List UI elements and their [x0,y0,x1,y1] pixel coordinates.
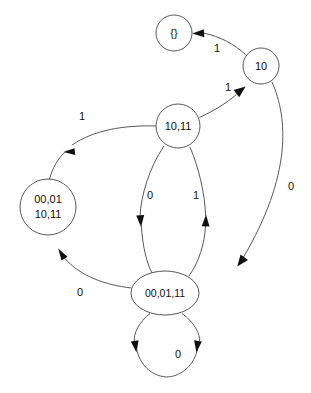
state-diagram-canvas: 1 1 0 1 [0,0,311,393]
arrow-head [58,249,67,261]
node-10[interactable]: 10 [243,48,279,84]
node-label-00-01-10-11-line1: 00,01 [34,193,62,205]
edge-label-000111-self-loop: 0 [175,348,181,360]
edge-path [140,146,164,216]
edge-000111-self-loop: 0 [131,314,202,378]
edge-label-1011-to-10: 1 [225,81,231,93]
edge-path [189,226,206,276]
edge-path [72,126,156,145]
edge-000111-to-1011: 1 [189,147,210,276]
edge-label-000111-to-00011011: 0 [77,286,83,298]
arrow-head [192,29,204,37]
edge-label-10-to-empty: 1 [214,42,220,54]
edge-path-tail [190,147,206,218]
arrow-head-right [194,340,202,352]
arrow-head [136,215,144,227]
node-label-00-01-10-11-line2: 10,11 [35,208,62,220]
edge-000111-to-00011011: 0 [58,249,131,298]
edge-path-right-tail [167,349,198,377]
edge-path [204,33,246,54]
edge-path-tail [50,151,67,179]
edge-10-to-empty: 1 [192,29,245,54]
state-machine-diagram: 1 1 0 1 [0,0,311,393]
edge-10-to-000111: 0 [237,82,294,267]
edge-1011-to-10: 1 [200,81,246,118]
node-empty-set[interactable]: {} [156,15,192,51]
node-label-10-11: 10,11 [165,120,192,132]
edge-label-000111-to-1011: 1 [193,189,199,201]
node-label-empty-set: {} [170,27,178,39]
edge-label-1011-to-00011011: 1 [79,110,85,122]
node-00-01-11[interactable]: 00,01,11 [131,271,199,315]
node-00-01-10-11[interactable]: 00,01 10,11 [20,179,76,235]
edge-path [200,95,237,118]
nodes-layer: {} 10 10,11 00,01 10,11 00,01,11 [20,15,279,315]
edge-path-tail [141,224,152,274]
edge-1011-to-000111: 0 [136,146,164,274]
edge-1011-to-00011011: 1 [50,110,157,179]
edge-path-left [134,314,150,343]
edge-path [243,82,283,258]
edge-path [65,258,132,288]
edge-label-1011-to-000111: 0 [147,189,153,201]
edge-path-right [182,314,200,343]
node-label-10: 10 [255,60,267,72]
node-label-00-01-11: 00,01,11 [145,287,185,299]
arrow-head [237,255,248,267]
edge-label-10-to-000111: 0 [288,180,294,192]
edge-path-left-tail [137,349,167,377]
node-10-11[interactable]: 10,11 [156,104,200,148]
